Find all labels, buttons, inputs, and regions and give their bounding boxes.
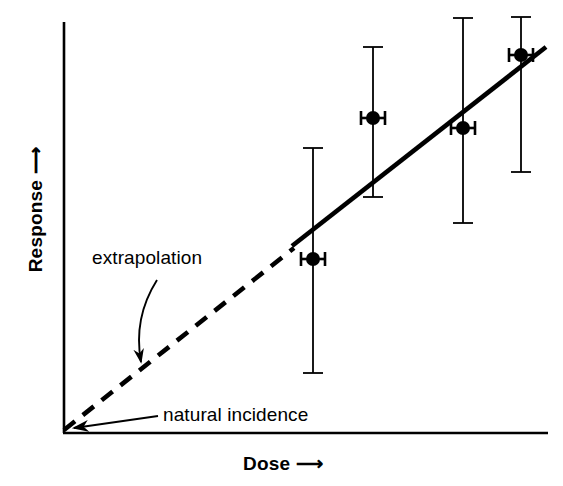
x-axis-arrow-icon: ⟶: [290, 452, 323, 475]
data-marker: [456, 121, 470, 135]
natural-incidence-arrow-icon: [74, 416, 158, 428]
data-point: [301, 148, 325, 373]
axis-lines: [63, 22, 548, 433]
extrapolation-dashed-line: [64, 248, 294, 430]
x-axis-label: Dose⟶: [243, 452, 323, 475]
data-marker: [366, 111, 380, 125]
data-marker: [306, 252, 320, 266]
x-axis-label-text: Dose: [243, 453, 290, 474]
y-axis-arrow-icon: ⟶: [24, 147, 47, 180]
data-marker: [514, 48, 528, 62]
extrapolation-arrow-icon: [139, 280, 157, 362]
y-axis-label: Response⟶: [24, 115, 47, 305]
data-point-group: [301, 17, 533, 373]
extrapolation-annotation-label: extrapolation: [92, 247, 202, 269]
data-point: [509, 17, 533, 172]
fitted-line: [292, 47, 546, 246]
dose-response-figure: Response⟶ Dose⟶ extrapolation natural in…: [0, 0, 563, 486]
natural-incidence-annotation-label: natural incidence: [163, 404, 308, 426]
y-axis-label-text: Response: [25, 180, 46, 272]
